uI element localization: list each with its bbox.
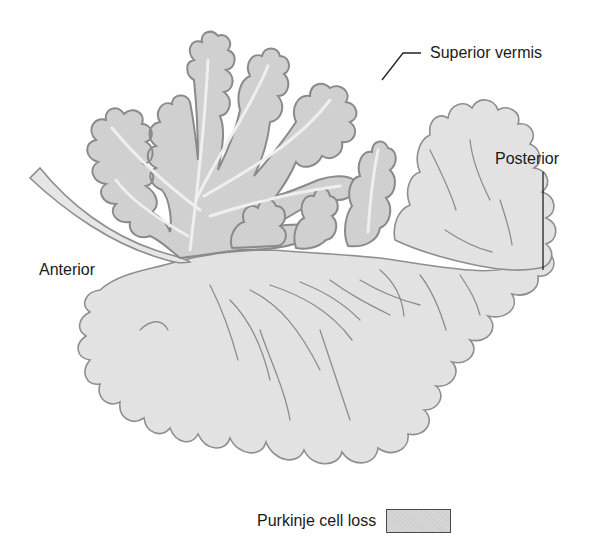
anterior-label: Anterior — [39, 262, 95, 278]
inferior-lobes — [78, 250, 554, 464]
superior-vermis-label: Superior vermis — [430, 45, 542, 61]
legend: Purkinje cell loss — [257, 509, 451, 533]
superior-vermis-pointer — [382, 53, 421, 80]
legend-swatch-purkinje-loss — [386, 509, 451, 533]
superior-vermis-folia — [87, 32, 396, 258]
legend-label: Purkinje cell loss — [257, 513, 376, 529]
posterior-label: Posterior — [495, 151, 559, 167]
posterior-folia — [394, 100, 556, 270]
